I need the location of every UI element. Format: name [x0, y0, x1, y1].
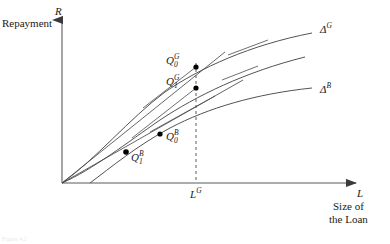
- point-Q1G-base: Q: [166, 75, 174, 87]
- point-Q1B-label: Q B 1: [131, 152, 145, 164]
- point-Q1G-dot: [193, 85, 198, 90]
- figure-caption: Figure 4.2: [2, 236, 27, 242]
- point-Q0B-base: Q: [166, 130, 174, 142]
- x-axis-description-line1: Size of: [333, 201, 364, 212]
- point-Q0B-label: Q B 0: [166, 131, 180, 143]
- y-axis-description: Repayment: [2, 18, 52, 29]
- y-axis-symbol: R: [55, 6, 62, 17]
- tangent-upper-right: [228, 40, 268, 55]
- point-Q1B-dot: [123, 149, 129, 155]
- point-Q0B-dot: [157, 131, 162, 136]
- delta-G-curve: [62, 33, 312, 183]
- middle-curve: [62, 57, 305, 183]
- point-Q0G-label: Q G 0: [166, 55, 180, 67]
- lg-tick-label: LG: [190, 187, 202, 200]
- point-Q0G-base: Q: [166, 54, 174, 66]
- figure-canvas: R Repayment L Size of the Loan LG ΔG ΔB …: [0, 0, 390, 244]
- delta-B-superscript: B: [326, 81, 331, 90]
- ray-through-Q1B-Q1G: [62, 80, 243, 183]
- tangent-at-Q0B: [150, 96, 215, 132]
- delta-G-superscript: G: [326, 21, 331, 30]
- lg-superscript: G: [196, 186, 201, 195]
- point-Q0G-subscript: 0: [174, 61, 178, 69]
- diagram-svg: [0, 0, 390, 244]
- point-Q1G-label: Q G 1: [166, 76, 180, 88]
- point-Q1G-subscript: 1: [174, 82, 178, 90]
- point-Q0G-dot: [193, 64, 198, 69]
- point-Q1B-subscript: 1: [139, 158, 143, 166]
- delta-B-curve: [90, 88, 312, 183]
- tangent-at-Q1G: [132, 88, 196, 138]
- x-axis-symbol: L: [357, 188, 363, 199]
- point-Q1B-base: Q: [131, 151, 139, 163]
- point-Q0B-subscript: 0: [174, 137, 178, 145]
- delta-G-label: ΔG: [320, 22, 332, 35]
- x-axis-description-line2: the Loan: [329, 214, 368, 225]
- delta-B-label: ΔB: [320, 82, 331, 95]
